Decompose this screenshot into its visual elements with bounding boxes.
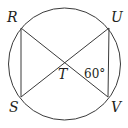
diagram-svg: R U S V T 60° <box>0 0 128 128</box>
point-label-v: V <box>111 99 123 115</box>
point-label-t: T <box>58 66 69 82</box>
angle-label: 60° <box>84 67 105 81</box>
chord-uv <box>108 28 109 97</box>
point-label-u: U <box>111 9 124 25</box>
circle-diagram: R U S V T 60° <box>0 0 128 128</box>
point-label-s: S <box>9 99 19 115</box>
circle <box>9 8 121 120</box>
point-label-r: R <box>6 9 18 25</box>
